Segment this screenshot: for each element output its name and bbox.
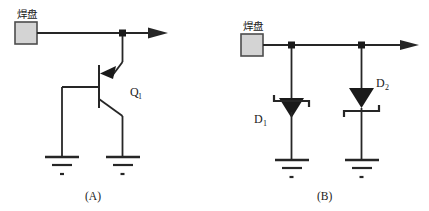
solder-pad-a — [15, 22, 37, 44]
label-d2-subscript: 2 — [385, 83, 389, 92]
collector-leg-q1 — [99, 99, 123, 116]
ground-symbol-b2 — [345, 160, 379, 177]
label-q1-subscript: 1 — [138, 92, 142, 101]
circuit-figure: 焊盘 Q 1 — [0, 0, 429, 211]
junction-marker-a — [119, 30, 126, 37]
junction-marker-b1 — [288, 42, 295, 49]
pnp-emitter-arrow-q1 — [100, 66, 116, 79]
solder-pad-b — [241, 34, 263, 56]
caption-panel-b: (B) — [317, 190, 333, 203]
label-d1-subscript: 1 — [263, 119, 267, 128]
label-d2: D — [376, 76, 385, 90]
ground-symbol-b1 — [275, 160, 309, 177]
label-d1: D — [254, 112, 263, 126]
panel-b: 焊盘 D 1 — [241, 20, 419, 203]
caption-panel-a: (A) — [85, 190, 101, 203]
pad-label-a: 焊盘 — [17, 8, 38, 20]
d2-triangle — [349, 88, 374, 108]
junction-marker-b2 — [358, 42, 365, 49]
signal-arrowhead-a — [148, 28, 168, 39]
circuit-diagram-canvas: 焊盘 Q 1 — [0, 0, 429, 211]
ground-symbol-a1 — [45, 157, 79, 174]
ground-symbol-a2 — [106, 157, 140, 174]
panel-a: 焊盘 Q 1 — [15, 8, 168, 203]
pad-label-b: 焊盘 — [243, 20, 264, 32]
signal-arrowhead-b — [400, 40, 419, 50]
